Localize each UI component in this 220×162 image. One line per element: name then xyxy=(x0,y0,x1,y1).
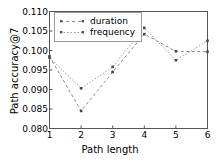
legend-swatch-duration xyxy=(59,17,85,26)
y-axis-title: Path accuracy@7 xyxy=(10,11,20,131)
data-point-marker xyxy=(175,59,178,62)
data-point-marker xyxy=(80,87,83,90)
y-tick-label: 0.080 xyxy=(22,124,48,133)
x-axis-title: Path length xyxy=(0,145,220,155)
data-point-marker xyxy=(111,71,114,74)
chart-legend: duration frequency xyxy=(54,12,142,42)
data-point-marker xyxy=(175,50,178,53)
data-point-marker xyxy=(206,50,209,53)
x-tick-label: 3 xyxy=(110,131,116,140)
series-line-duration xyxy=(50,34,208,111)
legend-label-duration: duration xyxy=(90,17,128,26)
data-point-marker xyxy=(143,33,146,36)
chart-figure: 0.0800.0850.0900.0950.1000.1050.110 1234… xyxy=(0,0,220,162)
x-tick-label: 6 xyxy=(205,131,211,140)
x-tick-label: 5 xyxy=(173,131,179,140)
data-point-marker xyxy=(111,66,114,69)
y-tick-label: 0.105 xyxy=(22,27,48,36)
y-tick-label: 0.085 xyxy=(22,105,48,114)
legend-swatch-frequency xyxy=(59,28,85,37)
legend-item-frequency: frequency xyxy=(59,27,135,38)
data-point-marker xyxy=(206,39,209,42)
y-tick-label: 0.090 xyxy=(22,85,48,94)
y-tick-label: 0.110 xyxy=(22,7,48,16)
data-point-marker xyxy=(48,56,51,59)
legend-item-duration: duration xyxy=(59,16,135,27)
legend-label-frequency: frequency xyxy=(90,28,135,37)
x-tick-label: 4 xyxy=(141,131,147,140)
y-tick-label: 0.100 xyxy=(22,46,48,55)
data-point-marker xyxy=(143,27,146,30)
x-tick-label: 1 xyxy=(47,131,53,140)
x-tick-label: 2 xyxy=(78,131,84,140)
y-tick-label: 0.095 xyxy=(22,66,48,75)
data-point-marker xyxy=(80,110,83,113)
